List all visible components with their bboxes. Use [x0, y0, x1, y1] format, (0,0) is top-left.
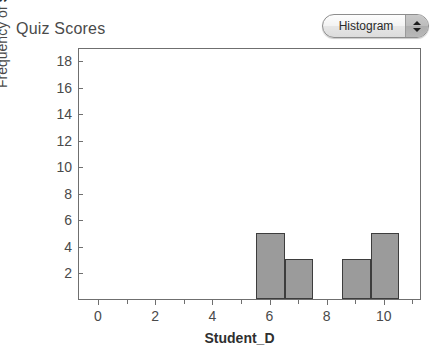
y-tick-mark	[78, 61, 83, 62]
x-tick-label: 0	[94, 308, 102, 324]
x-tick-mark	[155, 300, 156, 305]
x-tick-mark	[327, 300, 328, 305]
y-tick-mark	[78, 114, 83, 115]
axis-layer: 246810121416180246810	[0, 0, 439, 361]
x-minor-tick-mark	[241, 300, 242, 304]
x-minor-tick-mark	[412, 300, 413, 304]
y-tick-label: 6	[32, 212, 72, 228]
y-tick-mark	[78, 247, 83, 248]
y-tick-mark	[78, 167, 83, 168]
x-tick-label: 10	[376, 308, 392, 324]
x-tick-mark	[384, 300, 385, 305]
x-minor-tick-mark	[355, 300, 356, 304]
x-minor-tick-mark	[127, 300, 128, 304]
y-tick-mark	[78, 194, 83, 195]
y-tick-label: 10	[32, 159, 72, 175]
x-tick-label: 6	[266, 308, 274, 324]
y-tick-mark	[78, 273, 83, 274]
y-tick-label: 8	[32, 186, 72, 202]
y-tick-mark	[78, 88, 83, 89]
x-axis-label: Student_D	[0, 330, 439, 346]
x-tick-label: 2	[151, 308, 159, 324]
y-tick-label: 18	[32, 53, 72, 69]
y-tick-label: 12	[32, 133, 72, 149]
histogram-panel: Quiz Scores Histogram Frequency of Stude…	[0, 0, 439, 361]
x-tick-mark	[212, 300, 213, 305]
y-tick-label: 14	[32, 106, 72, 122]
x-axis-label-text: Student_D	[165, 330, 275, 346]
x-minor-tick-mark	[298, 300, 299, 304]
y-tick-mark	[78, 220, 83, 221]
x-tick-mark	[270, 300, 271, 305]
x-minor-tick-mark	[184, 300, 185, 304]
y-tick-mark	[78, 141, 83, 142]
y-tick-label: 4	[32, 239, 72, 255]
x-tick-mark	[98, 300, 99, 305]
x-tick-label: 4	[208, 308, 216, 324]
x-tick-label: 8	[323, 308, 331, 324]
y-tick-label: 16	[32, 80, 72, 96]
y-tick-label: 2	[32, 265, 72, 281]
